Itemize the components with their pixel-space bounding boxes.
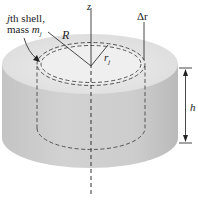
outer-radius-label: R [62, 30, 69, 41]
arrow-up-icon [183, 69, 188, 76]
thickness-label: Δr [137, 11, 148, 22]
shell-radius-label: rj [104, 52, 110, 68]
shell-label-line2: mass mj [7, 24, 42, 40]
cylinder-shell-diagram: jth shell, mass mj z R rj Δr h [0, 0, 198, 200]
arrow-down-icon [183, 135, 188, 142]
z-axis-label: z [87, 1, 91, 12]
height-label: h [190, 102, 196, 113]
